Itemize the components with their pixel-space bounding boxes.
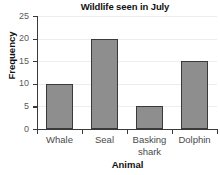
x-tick-label: Basking shark <box>127 134 172 157</box>
y-tick-mark <box>33 106 37 107</box>
bar <box>46 84 72 129</box>
bar <box>181 61 207 129</box>
x-tick-mark <box>172 130 173 134</box>
x-tick-label: Dolphin <box>172 134 217 146</box>
gridline <box>37 16 217 17</box>
y-tick-label: 20 <box>7 34 29 43</box>
y-tick-mark <box>33 16 37 17</box>
bar <box>136 106 162 129</box>
y-tick-label: 0 <box>7 125 29 134</box>
y-tick-label: 10 <box>7 79 29 88</box>
bar <box>91 39 117 129</box>
gridline <box>37 39 217 40</box>
x-tick-label: Whale <box>37 134 82 146</box>
y-axis-line <box>37 16 38 129</box>
chart-title: Wildlife seen in July <box>30 1 220 13</box>
x-tick-mark <box>37 130 38 134</box>
x-tick-mark <box>127 130 128 134</box>
y-tick-mark <box>33 61 37 62</box>
x-tick-mark <box>217 130 218 134</box>
plot-area <box>37 16 217 129</box>
x-tick-label: Seal <box>82 134 127 146</box>
x-tick-mark <box>82 130 83 134</box>
y-tick-mark <box>33 39 37 40</box>
y-tick-mark <box>33 84 37 85</box>
y-tick-label: 15 <box>7 57 29 66</box>
y-tick-label: 5 <box>7 102 29 111</box>
x-axis-title: Animal <box>37 159 218 170</box>
bar-chart: Wildlife seen in July Frequency 05101520… <box>0 0 220 175</box>
y-tick-label: 25 <box>7 12 29 21</box>
